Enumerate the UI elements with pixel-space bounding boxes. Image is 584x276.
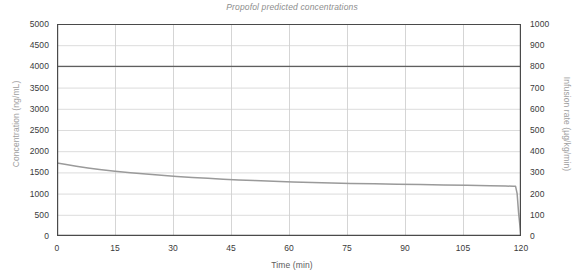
plot-area xyxy=(57,24,521,236)
x-tick-label: 60 xyxy=(269,243,309,253)
x-tick-label: 0 xyxy=(37,243,77,253)
x-tick-label: 120 xyxy=(501,243,541,253)
y-tick-label-left: 0 xyxy=(7,231,49,241)
axis-spines xyxy=(57,24,521,236)
x-tick-label: 30 xyxy=(153,243,193,253)
vertical-gridlines xyxy=(116,24,464,236)
y-tick-label-left: 500 xyxy=(7,210,49,220)
horizontal-gridlines xyxy=(57,46,521,216)
y-tick-label-right: 200 xyxy=(530,189,572,199)
x-tick-label: 90 xyxy=(385,243,425,253)
y-tick-label-right: 100 xyxy=(530,210,572,220)
plot-svg xyxy=(57,24,521,236)
x-tick-label: 105 xyxy=(443,243,483,253)
y-tick-label-left: 1000 xyxy=(7,189,49,199)
data-series-layer xyxy=(57,66,521,236)
y-tick-label-right: 1000 xyxy=(530,19,572,29)
x-tick-label: 45 xyxy=(211,243,251,253)
y-tick-label-left: 4500 xyxy=(7,40,49,50)
y-tick-label-right: 900 xyxy=(530,40,572,50)
y-tick-label-right: 0 xyxy=(530,231,572,241)
x-axis-title: Time (min) xyxy=(0,260,584,270)
y-axis-left-title: Concentration (ng/mL) xyxy=(11,64,21,184)
series-line xyxy=(57,163,521,236)
chart-title: Propofol predicted concentrations xyxy=(0,2,584,12)
y-axis-right-title: Infusion rate (µg/kg/min) xyxy=(562,64,572,184)
x-tick-label: 15 xyxy=(95,243,135,253)
chart-figure: Propofol predicted concentrations Concen… xyxy=(0,0,584,276)
x-tick-label: 75 xyxy=(327,243,367,253)
y-tick-label-left: 5000 xyxy=(7,19,49,29)
